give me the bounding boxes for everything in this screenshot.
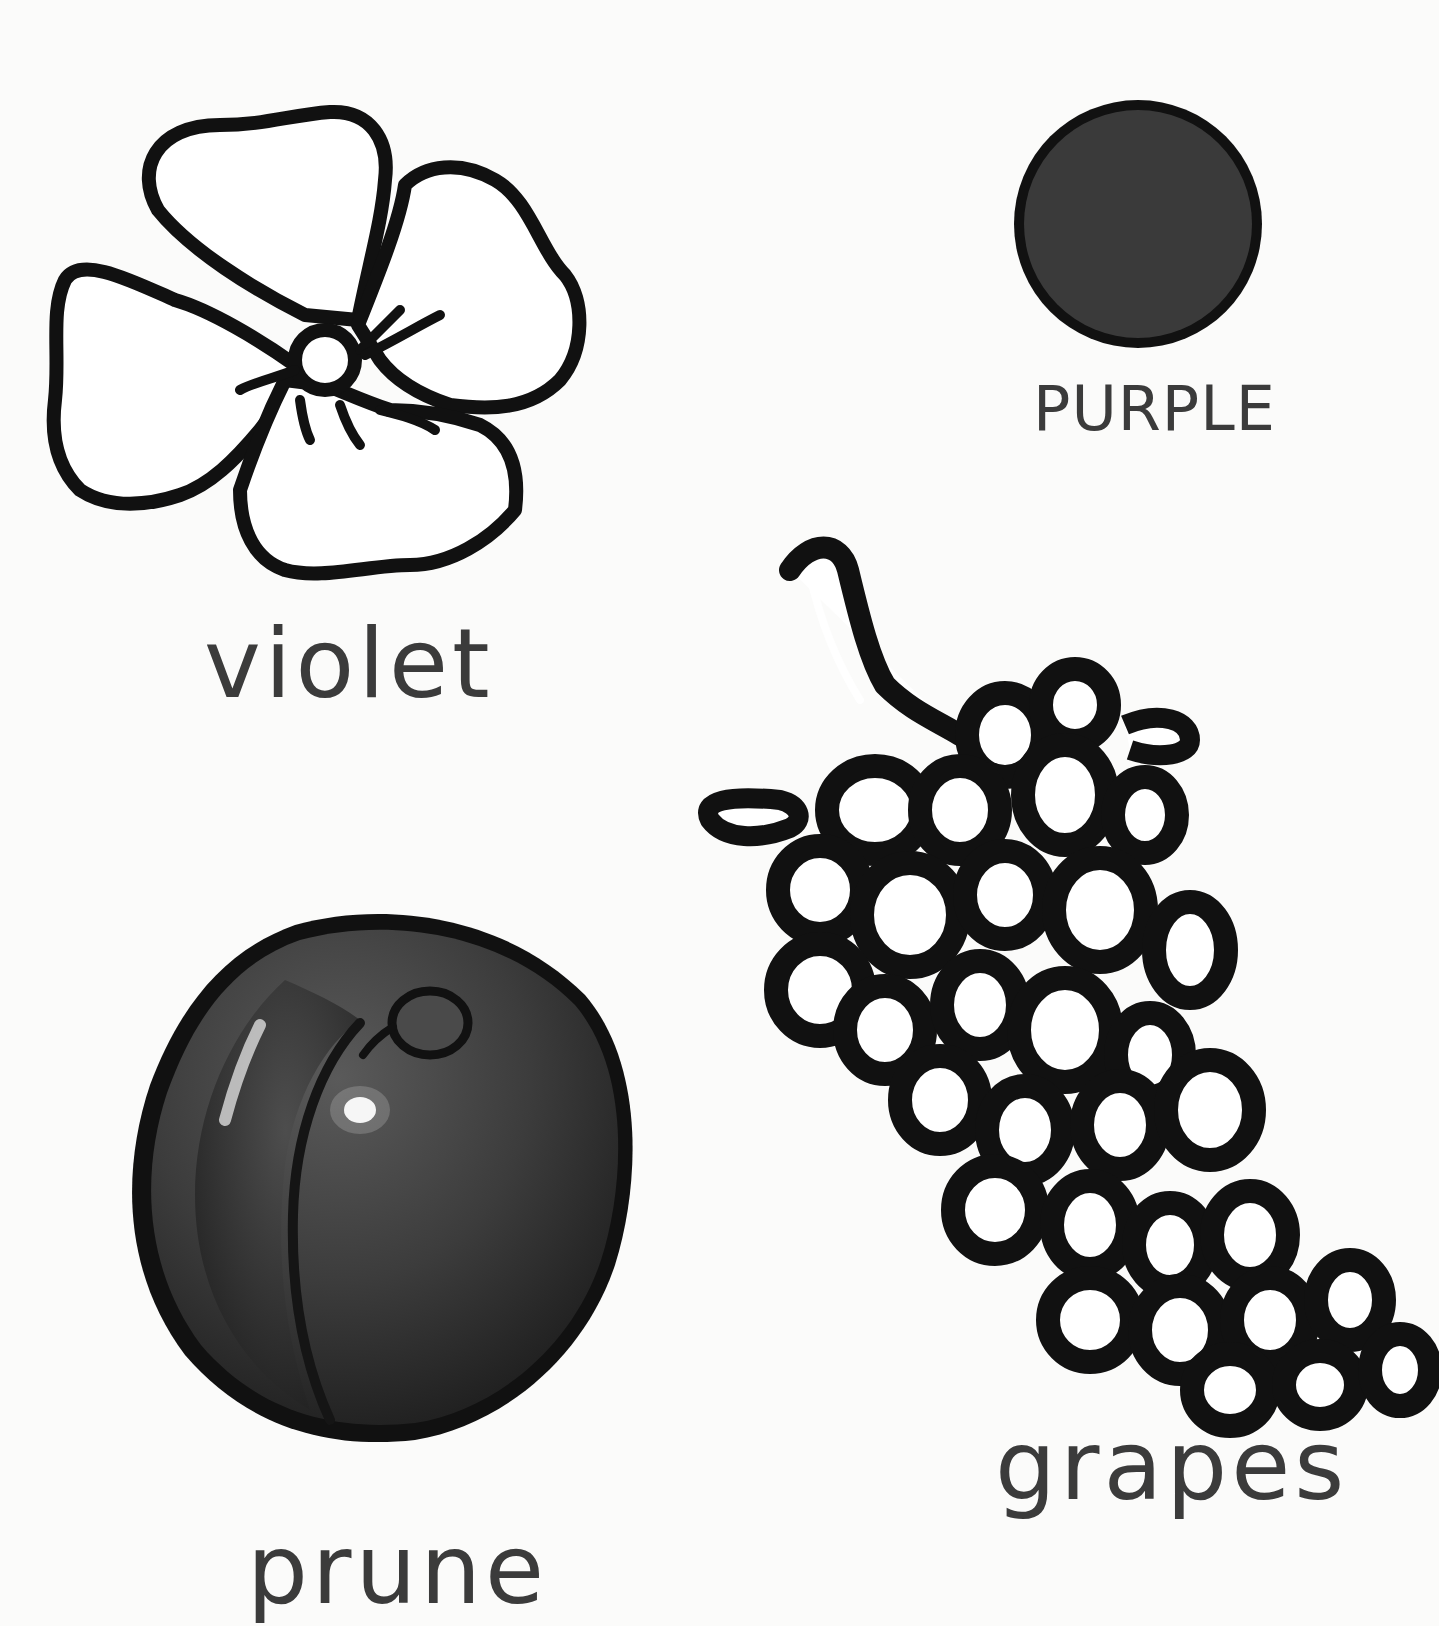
prune-label: prune bbox=[247, 1522, 548, 1618]
purple-color-swatch bbox=[1010, 96, 1266, 352]
purple-swatch-label: PURPLE bbox=[1033, 378, 1276, 440]
grape-bunch-icon bbox=[670, 510, 1439, 1410]
color-circle-icon bbox=[1010, 96, 1266, 352]
violet-label: violet bbox=[204, 616, 494, 712]
prune-illustration bbox=[125, 905, 635, 1445]
violet-flower-illustration bbox=[40, 110, 620, 590]
grapes-illustration bbox=[670, 510, 1439, 1410]
plum-icon bbox=[125, 905, 635, 1445]
flower-icon bbox=[40, 110, 620, 590]
grapes-label: grapes bbox=[995, 1418, 1348, 1514]
